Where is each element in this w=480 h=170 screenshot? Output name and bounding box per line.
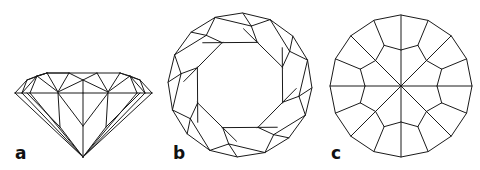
lower-girdle-facet — [401, 122, 418, 127]
bezel-facet — [270, 20, 290, 52]
diamond-side-view — [15, 73, 152, 157]
lower-girdle-facet — [426, 103, 441, 112]
pavilion-main — [401, 36, 451, 86]
table-edge — [257, 89, 296, 128]
lower-girdle-facet — [374, 127, 384, 152]
bezel-facet — [251, 20, 270, 26]
crown-facet — [120, 73, 130, 76]
lower-girdle-facet — [376, 45, 385, 60]
crown-facet — [22, 80, 27, 93]
crown-edge — [140, 80, 152, 93]
lower-girdle-facet — [360, 61, 375, 70]
star-facet — [258, 127, 274, 134]
crown-facet — [69, 73, 83, 80]
lower-girdle-facet — [384, 45, 401, 50]
pavilion-main — [351, 36, 401, 86]
pavilion-edge — [83, 93, 152, 157]
panel-label-b: b — [173, 145, 185, 162]
pavilion-facet — [58, 93, 83, 126]
pavilion-facet — [83, 93, 108, 126]
bezel-facet — [172, 74, 181, 110]
pavilion-facet — [58, 93, 60, 127]
lower-girdle-facet — [418, 45, 427, 60]
bezel-facet — [290, 36, 293, 51]
pavilion-main — [401, 86, 451, 136]
star-facet — [282, 51, 289, 67]
bezel-facet — [274, 115, 306, 135]
star-facet — [190, 103, 197, 119]
crown-facet — [37, 76, 58, 92]
pavilion-facet — [83, 93, 145, 157]
lower-girdle-facet — [418, 111, 427, 126]
bezel-facet — [299, 60, 308, 96]
lower-girdle-facet — [335, 103, 360, 113]
pavilion-facet — [60, 127, 83, 157]
star-facet — [206, 35, 222, 42]
panel-label-c: c — [331, 145, 341, 162]
lower-girdle-facet — [376, 111, 385, 126]
bezel-facet — [299, 96, 305, 115]
lower-girdle-facet — [442, 59, 467, 69]
table-edge — [184, 42, 223, 81]
bezel-facet — [190, 119, 210, 151]
lower-girdle-facet — [335, 59, 360, 69]
bezel-facet — [191, 32, 206, 35]
lower-girdle-facet — [437, 69, 442, 86]
figure-canvas — [0, 0, 480, 170]
pavilion-facet — [83, 93, 137, 157]
lower-girdle-facet — [374, 20, 384, 45]
girdle-outline — [168, 13, 312, 157]
pavilion-facet — [27, 93, 60, 127]
bezel-facet — [175, 55, 181, 74]
crown-facet — [108, 76, 130, 92]
bezel-facet — [215, 17, 251, 26]
crown-facet — [140, 80, 145, 93]
diamond-facet-figure: a b c — [0, 0, 480, 170]
table-edge — [244, 29, 283, 68]
crown-facet — [47, 73, 58, 92]
lower-girdle-facet — [360, 103, 375, 112]
panel-label-a: a — [15, 145, 26, 162]
diamond-bottom-view — [330, 15, 472, 157]
pavilion-facet — [22, 93, 83, 157]
lower-girdle-facet — [426, 61, 441, 70]
pavilion-main — [351, 86, 401, 136]
lower-girdle-facet — [418, 127, 428, 152]
crown-facet — [108, 73, 120, 92]
lower-girdle-facet — [442, 103, 467, 113]
table-edge — [197, 102, 236, 141]
lower-girdle-facet — [360, 69, 365, 86]
diamond-top-view — [168, 13, 312, 157]
crown-facet — [83, 73, 97, 80]
pavilion-facet — [106, 93, 140, 127]
pavilion-facet — [106, 93, 108, 127]
bezel-facet — [187, 119, 190, 134]
bezel-facet — [175, 35, 207, 55]
bezel-facet — [274, 135, 289, 138]
lower-girdle-facet — [418, 20, 428, 45]
pavilion-facet — [83, 127, 106, 157]
bezel-facet — [229, 144, 265, 153]
crown-edge — [15, 80, 27, 93]
lower-girdle-facet — [401, 45, 418, 50]
lower-girdle-facet — [360, 86, 365, 103]
bezel-facet — [210, 144, 229, 150]
lower-girdle-facet — [437, 86, 442, 103]
crown-facet — [37, 73, 47, 76]
lower-girdle-facet — [384, 122, 401, 127]
